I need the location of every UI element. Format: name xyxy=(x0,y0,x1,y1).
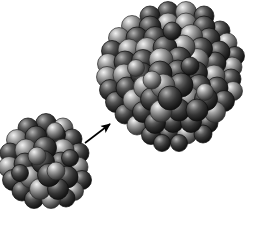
small-cluster-atom xyxy=(28,147,46,165)
small-cluster-atom xyxy=(62,150,79,167)
large-cluster-atom xyxy=(171,135,188,152)
small-cluster-atom xyxy=(47,123,64,140)
small-cluster-atom xyxy=(12,165,29,182)
large-cluster-atom xyxy=(158,86,182,110)
small-cluster-atom xyxy=(47,162,65,180)
large-cluster-atom xyxy=(163,22,181,40)
large-cluster-atom xyxy=(186,99,208,121)
large-cluster-atom xyxy=(197,84,214,101)
large-cluster-atom xyxy=(128,60,145,77)
large-cluster-atom xyxy=(154,135,171,152)
large-cluster-atom xyxy=(181,57,199,75)
cluster-growth-figure: Small spherical atomic cluster transform… xyxy=(0,0,254,231)
large-cluster-atom xyxy=(143,71,161,89)
cluster-growth-illustration xyxy=(0,0,254,231)
